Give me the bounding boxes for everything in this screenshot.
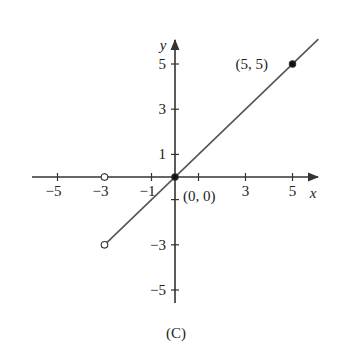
x-tick-label: −5 xyxy=(46,183,62,199)
y-tick-label: 3 xyxy=(159,101,167,117)
x-axis-label: x xyxy=(309,185,317,201)
y-tick-label: −3 xyxy=(150,237,166,253)
filled-point xyxy=(172,174,178,180)
y-tick-label: −5 xyxy=(150,282,166,298)
filled-point xyxy=(289,61,295,67)
open-point xyxy=(101,242,108,249)
labels: −5−3−135−5−3135xy(5, 5)(0, 0)(C) xyxy=(46,37,317,342)
data-series xyxy=(105,39,319,245)
annotation-origin: (0, 0) xyxy=(183,188,216,205)
x-tick-label: 3 xyxy=(242,183,250,199)
y-axis-label: y xyxy=(158,37,167,53)
axes xyxy=(32,40,318,303)
x-tick-label: 5 xyxy=(289,183,297,199)
x-tick-label: −1 xyxy=(140,183,156,199)
y-tick-label: 1 xyxy=(159,146,167,162)
x-tick-label: −3 xyxy=(93,183,109,199)
annotation-5-5: (5, 5) xyxy=(236,56,269,73)
piecewise-function-graph: −5−3−135−5−3135xy(5, 5)(0, 0)(C) xyxy=(0,0,343,353)
line-y-equals-x xyxy=(105,39,319,245)
open-point xyxy=(101,174,108,181)
figure-caption: (C) xyxy=(166,325,186,342)
y-tick-label: 5 xyxy=(159,56,167,72)
